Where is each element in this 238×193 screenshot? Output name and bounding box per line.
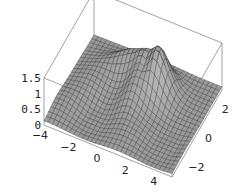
- z-tick-label: 1: [34, 88, 41, 101]
- x-tick-label: −2: [60, 141, 76, 154]
- x-tick-label: 2: [122, 164, 129, 177]
- x-tick-label: 4: [150, 175, 157, 188]
- y-tick-label: 0: [205, 132, 212, 145]
- x-tick-label: −4: [32, 129, 48, 142]
- y-tick-label: −2: [188, 161, 204, 174]
- z-tick-label: 0.5: [21, 103, 41, 116]
- surface-plot: 00.511.5 −4−2024 −202: [0, 0, 238, 193]
- x-tick-label: 0: [93, 152, 100, 165]
- z-tick-label: 1.5: [21, 72, 41, 85]
- y-tick-label: 2: [222, 103, 229, 116]
- z-axis: 00.511.5: [21, 72, 41, 132]
